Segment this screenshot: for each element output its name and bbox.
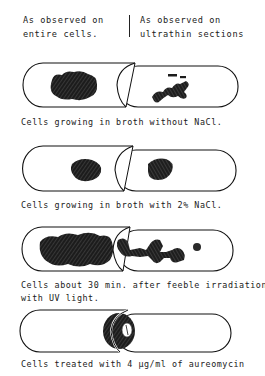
caption-no-nacl: Cells growing in broth without NaCl. bbox=[21, 116, 222, 129]
panel-no-nacl bbox=[23, 63, 238, 107]
cell-diagrams bbox=[0, 0, 265, 376]
panel-aureomycin bbox=[20, 310, 231, 352]
nucleoid-mass bbox=[51, 71, 97, 100]
panel-uv bbox=[22, 227, 233, 271]
caption-nacl-2pct: Cells growing in broth with 2% NaCl. bbox=[21, 199, 222, 212]
panel-nacl-2pct bbox=[23, 146, 236, 191]
caption-uv-line1: Cells about 30 min. after feeble irradia… bbox=[21, 279, 265, 292]
caption-aureomycin: Cells treated with 4 µg/ml of aureomycin bbox=[21, 358, 245, 371]
section-cell-outline bbox=[116, 150, 236, 191]
nucleoid-elongated bbox=[40, 233, 113, 267]
caption-uv-line2: with UV light. bbox=[21, 292, 99, 305]
